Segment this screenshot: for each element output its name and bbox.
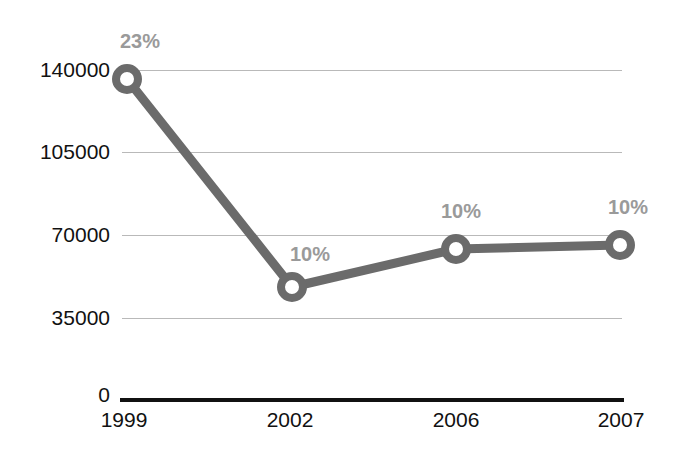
y-tick-label-0: 0	[98, 383, 110, 406]
line-chart-figure: 140000 105000 70000 35000 0 1999 2002 20…	[0, 0, 675, 471]
x-tick-label-2007: 2007	[598, 408, 645, 431]
data-point-marker-2002[interactable]	[281, 276, 303, 298]
x-tick-label-2002: 2002	[267, 408, 314, 431]
data-point-label-1999: 23%	[120, 30, 160, 52]
series-line-path	[127, 79, 620, 287]
y-axis-tick-labels: 140000 105000 70000 35000 0	[40, 58, 110, 406]
chart-canvas: 140000 105000 70000 35000 0 1999 2002 20…	[0, 0, 675, 471]
data-point-labels: 23% 10% 10% 10%	[120, 30, 648, 265]
y-tick-label-105000: 105000	[40, 140, 110, 163]
data-point-label-2002: 10%	[290, 243, 330, 265]
x-tick-label-2006: 2006	[433, 408, 480, 431]
y-tick-label-35000: 35000	[52, 306, 110, 329]
data-point-marker-2006[interactable]	[445, 238, 467, 260]
x-tick-label-1999: 1999	[101, 408, 148, 431]
x-axis-tick-labels: 1999 2002 2006 2007	[101, 408, 645, 431]
data-point-marker-1999[interactable]	[116, 68, 138, 90]
data-point-label-2006: 10%	[441, 200, 481, 222]
gridlines	[122, 71, 622, 319]
data-point-marker-2007[interactable]	[609, 234, 631, 256]
y-tick-label-70000: 70000	[52, 223, 110, 246]
data-point-label-2007: 10%	[608, 196, 648, 218]
y-tick-label-140000: 140000	[40, 58, 110, 81]
